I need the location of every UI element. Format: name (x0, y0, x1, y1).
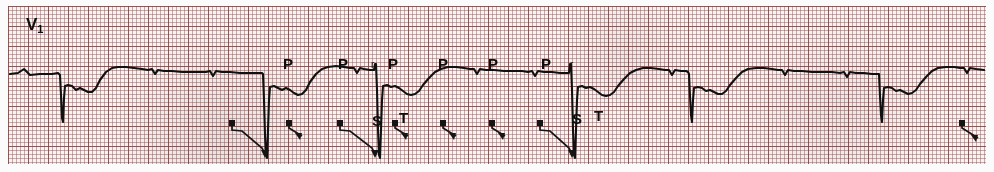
r-wave-label-1: r (371, 60, 374, 70)
ecg-waveform-trace (10, 64, 984, 158)
arrow-head (371, 150, 379, 158)
conduction-arrow (229, 120, 269, 158)
arrow-shaft (232, 123, 265, 154)
conduction-arrow (286, 120, 302, 140)
r-wave-label-2: r (570, 60, 573, 70)
p-wave-label-6: P (541, 56, 551, 71)
s-wave-label-1: S (372, 113, 382, 128)
arrow-head (401, 133, 408, 140)
arrow-shaft (540, 123, 572, 154)
arrow-head (498, 133, 505, 140)
p-wave-label-2: P (338, 56, 348, 71)
ecg-rhythm-strip-figure: V1 PPPPPPrrSSTT (0, 0, 994, 172)
t-wave-label-1: T (399, 110, 408, 125)
arrow-shaft (340, 123, 375, 154)
ecg-trace-svg (0, 0, 994, 172)
conduction-ladder-group (229, 120, 978, 158)
p-wave-label-3: P (388, 56, 398, 71)
conduction-arrow (489, 120, 505, 140)
p-wave-label-4: P (438, 56, 448, 71)
s-wave-label-2: S (572, 111, 582, 126)
p-wave-label-5: P (488, 56, 498, 71)
arrow-head (971, 135, 978, 142)
conduction-arrow (440, 120, 456, 140)
t-wave-label-2: T (594, 108, 603, 123)
arrow-head (449, 133, 456, 140)
arrow-head (295, 133, 302, 140)
conduction-arrow (537, 120, 576, 158)
conduction-arrow (959, 120, 978, 142)
p-wave-label-1: P (283, 56, 293, 71)
